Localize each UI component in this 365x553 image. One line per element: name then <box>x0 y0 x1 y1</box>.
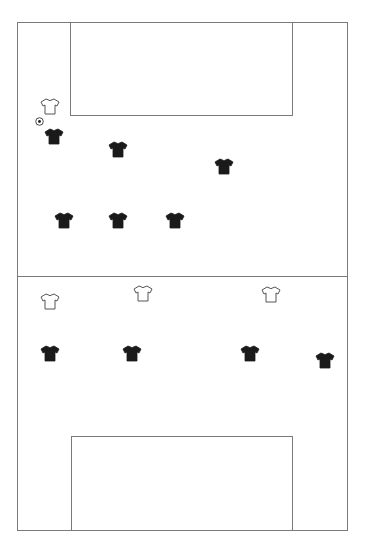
jersey-outline-icon[interactable] <box>40 293 60 310</box>
soccer-ball-icon[interactable] <box>35 117 44 126</box>
jersey-outline-icon[interactable] <box>40 98 60 115</box>
jersey-filled-icon[interactable] <box>315 352 335 369</box>
jersey-outline-icon[interactable] <box>261 286 281 303</box>
jersey-outline-icon[interactable] <box>133 285 153 302</box>
jersey-filled-icon[interactable] <box>240 345 260 362</box>
jersey-filled-icon[interactable] <box>40 345 60 362</box>
jersey-filled-icon[interactable] <box>122 345 142 362</box>
jersey-filled-icon[interactable] <box>44 128 64 145</box>
jersey-filled-icon[interactable] <box>165 212 185 229</box>
jersey-filled-icon[interactable] <box>214 158 234 175</box>
jersey-filled-icon[interactable] <box>108 212 128 229</box>
jersey-filled-icon[interactable] <box>54 212 74 229</box>
bottom-penalty-box <box>71 436 293 531</box>
halfway-line <box>17 276 348 277</box>
jersey-filled-icon[interactable] <box>108 141 128 158</box>
top-penalty-box <box>70 22 293 116</box>
